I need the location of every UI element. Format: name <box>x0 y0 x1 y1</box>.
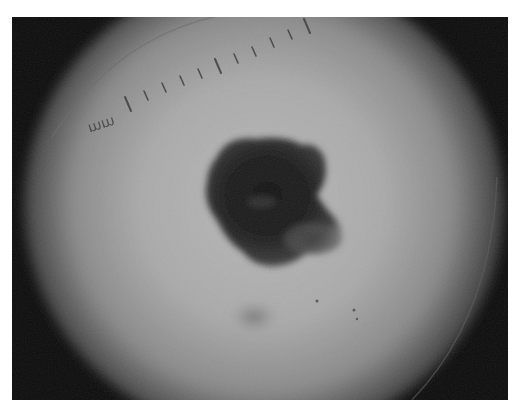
dermoscopy-image: mm <box>12 17 508 400</box>
grain-overlay <box>12 17 508 400</box>
dermoscopy-photo: mm <box>12 17 508 400</box>
